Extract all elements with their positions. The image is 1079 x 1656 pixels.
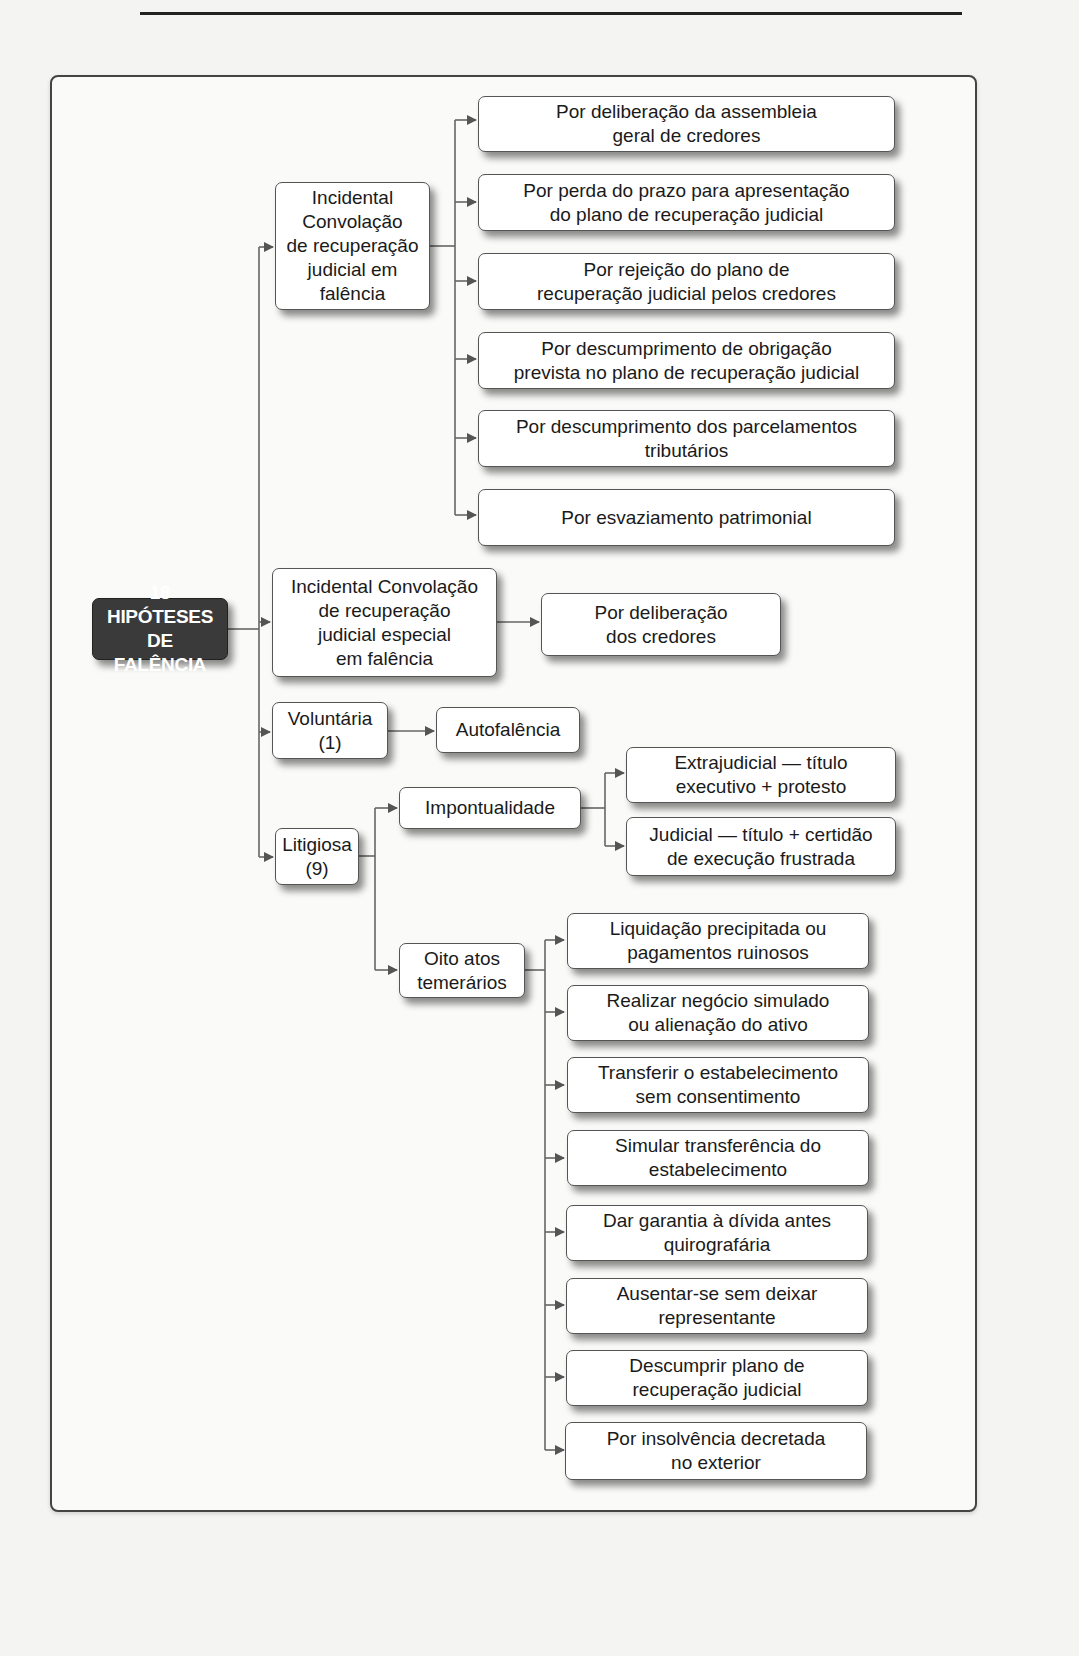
node-simular-transferencia: Simular transferência do estabelecimento [567,1130,869,1186]
node-descumprir-plano: Descumprir plano de recuperação judicial [566,1350,868,1406]
node-garantia-divida: Dar garantia à dívida antes quirografári… [566,1205,868,1261]
node-oito-atos-temerarios: Oito atos temerários [399,943,525,998]
node-liquidacao-precipitada: Liquidação precipitada ou pagamentos rui… [567,913,869,969]
node-esvaziamento-patrimonial: Por esvaziamento patrimonial [478,489,895,546]
node-rejeicao-plano: Por rejeição do plano de recuperação jud… [478,253,895,310]
node-negocio-simulado: Realizar negócio simulado ou alienação d… [567,985,869,1041]
node-perda-prazo: Por perda do prazo para apresentação do … [478,174,895,231]
node-impontualidade: Impontualidade [399,787,581,829]
node-insolvencia-exterior: Por insolvência decretada no exterior [565,1422,867,1480]
node-incidental-convolacao-especial: Incidental Convolação de recuperação jud… [272,568,497,677]
node-descumprimento-obrigacao: Por descumprimento de obrigação prevista… [478,332,895,389]
node-deliberacao-credores: Por deliberação dos credores [541,593,781,656]
root-node: 18 HIPÓTESES DE FALÊNCIA [92,598,228,660]
node-incidental-convolacao: Incidental Convolação de recuperação jud… [275,182,430,310]
node-transferir-estabelecimento: Transferir o estabelecimento sem consent… [567,1057,869,1113]
node-judicial: Judicial — título + certidão de execução… [626,817,896,876]
node-litigiosa: Litigiosa (9) [275,828,359,885]
node-descumprimento-parcelamentos: Por descumprimento dos parcelamentos tri… [478,410,895,467]
node-autofalencia: Autofalência [436,707,580,753]
node-deliberacao-assembleia: Por deliberação da assembleia geral de c… [478,96,895,152]
node-ausentar-se: Ausentar-se sem deixar representante [566,1278,868,1334]
node-voluntaria: Voluntária (1) [272,702,388,759]
node-extrajudicial: Extrajudicial — título executivo + prote… [626,747,896,803]
